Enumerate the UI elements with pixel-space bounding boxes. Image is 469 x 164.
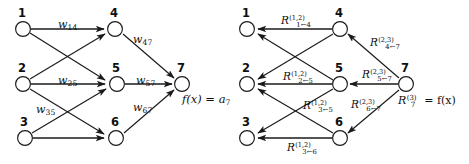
node-r7[interactable] [399, 77, 414, 92]
relevance-label-1-from-4: R(1,2)1←4 [281, 15, 319, 26]
node-label-3: 3 [20, 117, 28, 129]
node-4[interactable] [108, 22, 123, 37]
relevance-label-4-from-7: R(2,3)4←7 [370, 37, 408, 48]
node-label-4: 4 [110, 8, 118, 20]
figure-container: 1 2 3 4 5 6 7 w14 w47 w25 w57 w35 w67 f(… [0, 0, 469, 164]
weight-label-w47: w47 [133, 34, 152, 45]
node-label-r5: 5 [335, 63, 343, 75]
edge-2-to-4 [30, 34, 105, 79]
node-label-5: 5 [112, 63, 120, 75]
weight-label-w67: w67 [133, 102, 152, 113]
node-r3[interactable] [240, 131, 255, 146]
right-edges-layer1 [258, 29, 333, 138]
node-label-7: 7 [177, 63, 185, 75]
node-label-r1: 1 [242, 8, 250, 20]
relevance-label-5-from-7: R(2,3)5←7 [362, 69, 400, 80]
weight-label-w25: w25 [58, 75, 77, 86]
node-7[interactable] [175, 77, 190, 92]
relevance-label-3-from-5: R(1,2)3←5 [303, 100, 341, 111]
node-2[interactable] [16, 77, 31, 92]
relevance-label-3-from-6: R(1,2)3←6 [287, 142, 325, 153]
node-label-r2: 2 [242, 63, 250, 75]
output-label-r7: R(3)7 = f(x) [398, 95, 456, 106]
weight-label-w35: w35 [36, 104, 55, 115]
node-label-2: 2 [18, 63, 26, 75]
output-label-fx: f(x) = a7 [182, 94, 230, 106]
relevance-label-6-from-7: R(2,3)6←7 [351, 99, 389, 110]
node-label-r4: 4 [335, 8, 343, 20]
node-r2[interactable] [240, 77, 255, 92]
node-3[interactable] [18, 131, 33, 146]
node-r4[interactable] [333, 22, 348, 37]
node-r5[interactable] [333, 77, 348, 92]
node-label-6: 6 [111, 117, 119, 129]
node-r1[interactable] [240, 22, 255, 37]
weight-label-w14: w14 [58, 19, 77, 30]
node-5[interactable] [110, 77, 125, 92]
relevance-label-2-from-5: R(1,2)2←5 [283, 71, 321, 82]
node-1[interactable] [16, 22, 31, 37]
weight-label-w57: w57 [136, 75, 155, 86]
node-label-1: 1 [18, 8, 26, 20]
node-6[interactable] [109, 131, 124, 146]
node-r6[interactable] [333, 131, 348, 146]
node-label-r3: 3 [242, 117, 250, 129]
node-label-r7: 7 [401, 63, 409, 75]
node-label-r6: 6 [335, 117, 343, 129]
